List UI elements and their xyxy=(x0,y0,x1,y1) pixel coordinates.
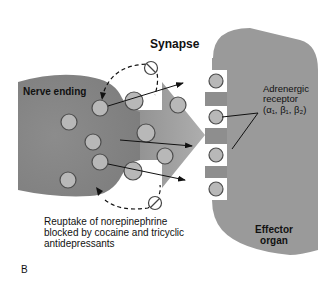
nerve-ending-label: Nerve ending xyxy=(23,86,86,97)
receptor-label: Adrenergic receptor (α₁, β₁, β₂) xyxy=(263,84,309,115)
reuptake-label-line3: antidepressants xyxy=(44,238,184,249)
receptor-label-line3: (α₁, β₁, β₂) xyxy=(263,105,309,115)
block-icon xyxy=(145,62,158,75)
effector-organ-label: Effector organ xyxy=(249,224,299,246)
effector-label-line2: organ xyxy=(249,235,299,246)
reuptake-label: Reuptake of norepinephrine blocked by co… xyxy=(44,216,184,249)
effector-label-line1: Effector xyxy=(249,224,299,235)
reuptake-label-line1: Reuptake of norepinephrine xyxy=(44,216,184,227)
reuptake-label-line2: blocked by cocaine and tricyclic xyxy=(44,227,184,238)
synapse-label: Synapse xyxy=(150,38,199,51)
block-icon xyxy=(149,197,162,210)
effector-organ xyxy=(212,28,318,255)
panel-letter: B xyxy=(21,264,28,275)
